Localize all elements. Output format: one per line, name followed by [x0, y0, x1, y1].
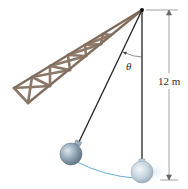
truss-boom [14, 10, 142, 103]
swing-path-arc [77, 162, 135, 178]
length-label: 12 m [158, 75, 181, 87]
ball-displaced [60, 140, 82, 165]
crane-pendulum-diagram: 12 m θ [0, 0, 188, 189]
pivot-point [140, 8, 144, 12]
dimension-line [146, 10, 178, 180]
theta-label: θ [126, 60, 132, 72]
